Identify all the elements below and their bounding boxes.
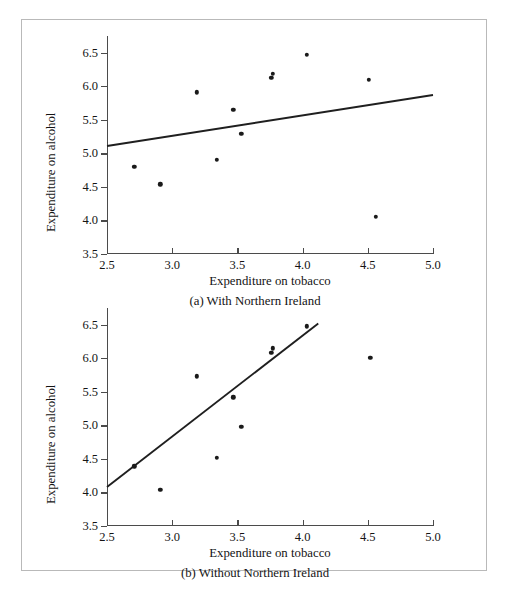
data-point: [239, 132, 243, 136]
y-tick-b-5: [101, 358, 107, 359]
y-tick-label-a-4: 5.5: [82, 114, 98, 127]
x-tick-label-b-2: 3.5: [230, 531, 246, 544]
regression-line-b: [107, 308, 433, 526]
y-axis-spine-b: [107, 308, 108, 526]
data-point: [132, 464, 136, 468]
data-point: [231, 108, 235, 112]
plot-area-a: 3.54.04.55.05.56.06.52.53.03.54.04.55.0: [107, 36, 433, 254]
x-tick-a-3: [303, 248, 304, 254]
data-point: [269, 75, 273, 79]
y-tick-label-b-4: 5.5: [82, 386, 98, 399]
data-point: [214, 158, 218, 162]
y-axis-label-a: Expenditure on alcohol: [44, 113, 59, 232]
y-tick-label-a-2: 4.5: [82, 181, 98, 194]
x-tick-label-a-1: 3.0: [164, 259, 180, 272]
data-point: [132, 165, 136, 169]
x-tick-b-1: [172, 520, 173, 526]
x-tick-label-b-3: 4.0: [295, 531, 311, 544]
x-axis-label-a: Expenditure on tobacco: [107, 274, 433, 289]
data-point: [158, 182, 162, 186]
y-tick-a-1: [101, 220, 107, 221]
y-axis-label-b: Expenditure on alcohol: [44, 385, 59, 504]
y-tick-a-2: [101, 187, 107, 188]
x-tick-b-2: [237, 520, 238, 526]
data-point: [270, 346, 274, 350]
y-tick-label-a-3: 5.0: [82, 147, 98, 160]
x-tick-b-3: [303, 520, 304, 526]
x-tick-a-0: [107, 248, 108, 254]
x-tick-a-2: [237, 248, 238, 254]
y-tick-a-6: [101, 53, 107, 54]
x-tick-label-b-1: 3.0: [164, 531, 180, 544]
y-tick-label-a-5: 6.0: [82, 80, 98, 93]
x-tick-b-5: [433, 520, 434, 526]
y-tick-b-0: [101, 526, 107, 527]
y-tick-a-3: [101, 153, 107, 154]
regression-line-a: [107, 36, 433, 254]
panel-without-northern-ireland: 3.54.04.55.05.56.06.52.53.03.54.04.55.0 …: [22, 294, 488, 570]
data-point: [239, 425, 243, 429]
x-tick-label-a-5: 5.0: [425, 259, 441, 272]
data-point: [269, 351, 273, 355]
y-tick-b-4: [101, 392, 107, 393]
y-tick-b-6: [101, 325, 107, 326]
x-tick-label-a-3: 4.0: [295, 259, 311, 272]
data-point: [368, 355, 372, 359]
x-tick-a-1: [172, 248, 173, 254]
y-tick-b-1: [101, 492, 107, 493]
data-point: [304, 53, 308, 57]
y-tick-label-a-6: 6.5: [82, 47, 98, 60]
y-tick-label-b-2: 4.5: [82, 453, 98, 466]
y-tick-a-0: [101, 254, 107, 255]
x-tick-label-b-4: 4.5: [360, 531, 376, 544]
y-tick-label-a-1: 4.0: [82, 214, 98, 227]
y-tick-b-3: [101, 425, 107, 426]
x-axis-label-b: Expenditure on tobacco: [107, 546, 433, 561]
x-tick-label-a-4: 4.5: [360, 259, 376, 272]
y-tick-b-2: [101, 459, 107, 460]
data-point: [304, 324, 308, 328]
y-tick-label-b-3: 5.0: [82, 419, 98, 432]
y-tick-label-b-0: 3.5: [82, 520, 98, 533]
panel-caption-b: (b) Without Northern Ireland: [22, 566, 488, 581]
x-tick-label-a-0: 2.5: [99, 259, 115, 272]
figure-frame: 3.54.04.55.05.56.06.52.53.03.54.04.55.0 …: [21, 19, 487, 571]
x-tick-a-4: [368, 248, 369, 254]
data-point: [373, 215, 377, 219]
y-tick-label-b-1: 4.0: [82, 486, 98, 499]
data-point: [195, 90, 199, 94]
data-point: [195, 374, 199, 378]
x-tick-label-b-0: 2.5: [99, 531, 115, 544]
y-tick-a-5: [101, 86, 107, 87]
y-tick-label-b-6: 6.5: [82, 319, 98, 332]
data-point: [270, 71, 274, 75]
data-point: [367, 77, 371, 81]
x-tick-b-4: [368, 520, 369, 526]
panel-with-northern-ireland: 3.54.04.55.05.56.06.52.53.03.54.04.55.0 …: [22, 22, 488, 294]
data-point: [231, 395, 235, 399]
y-axis-spine-a: [107, 36, 108, 254]
y-tick-a-4: [101, 120, 107, 121]
data-point: [214, 455, 218, 459]
x-tick-label-a-2: 3.5: [230, 259, 246, 272]
x-axis-spine-a: [107, 253, 433, 254]
x-tick-b-0: [107, 520, 108, 526]
y-tick-label-a-0: 3.5: [82, 248, 98, 261]
y-tick-label-b-5: 6.0: [82, 352, 98, 365]
x-tick-a-5: [433, 248, 434, 254]
plot-area-b: 3.54.04.55.05.56.06.52.53.03.54.04.55.0: [107, 308, 433, 526]
x-tick-label-b-5: 5.0: [425, 531, 441, 544]
data-point: [158, 488, 162, 492]
x-axis-spine-b: [107, 525, 433, 526]
